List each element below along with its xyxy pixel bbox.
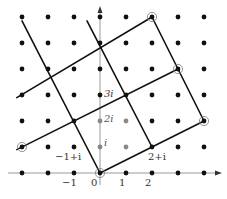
lattice-point bbox=[202, 119, 207, 124]
lattice-point bbox=[46, 41, 51, 46]
lattice-point bbox=[20, 171, 25, 176]
lattice-point bbox=[20, 145, 25, 150]
lattice-point bbox=[124, 119, 129, 124]
y-tick-label-3i: 3i bbox=[104, 88, 114, 99]
lattice-point bbox=[20, 41, 25, 46]
lattice-point bbox=[176, 119, 181, 124]
x-tick-label-neg1: −1 bbox=[62, 177, 77, 188]
lattice-point bbox=[150, 119, 155, 124]
point-label-neg1-plus-i: −1+i bbox=[55, 151, 81, 162]
lattice-point bbox=[202, 41, 207, 46]
lattice-point bbox=[176, 145, 181, 150]
lattice-point bbox=[98, 41, 103, 46]
lattice-point bbox=[176, 67, 181, 72]
lattice-point bbox=[176, 93, 181, 98]
x-tick-label-2: 2 bbox=[145, 177, 151, 188]
lattice-point bbox=[98, 171, 103, 176]
lattice-point bbox=[124, 93, 129, 98]
lattice-point bbox=[20, 119, 25, 124]
lattice-point bbox=[46, 171, 51, 176]
lattice-point bbox=[46, 15, 51, 20]
lattice-point bbox=[176, 41, 181, 46]
x-tick-label-0: 0 bbox=[91, 177, 97, 188]
lattice-point bbox=[202, 171, 207, 176]
lattice-point bbox=[176, 15, 181, 20]
lattice-point bbox=[124, 171, 129, 176]
lattice-point bbox=[98, 67, 103, 72]
lattice-point bbox=[72, 93, 77, 98]
lattice-point bbox=[98, 119, 103, 124]
lattice-point bbox=[202, 15, 207, 20]
lattice-point bbox=[72, 145, 77, 150]
y-axis-arrow-icon bbox=[98, 6, 103, 13]
lattice-point bbox=[98, 145, 103, 150]
lattice-point bbox=[72, 171, 77, 176]
lattice-diagram: −1 0 1 2 i 2i 3i −1+i 2+i bbox=[0, 0, 227, 199]
lattice-point bbox=[46, 145, 51, 150]
axes bbox=[8, 6, 222, 185]
lattice-point bbox=[202, 145, 207, 150]
lattice-point bbox=[202, 67, 207, 72]
y-tick-label-i: i bbox=[104, 137, 107, 148]
lattice-line bbox=[87, 21, 152, 147]
lattice-point bbox=[150, 41, 155, 46]
y-tick-label-2i: 2i bbox=[103, 113, 114, 124]
lattice-point bbox=[46, 67, 51, 72]
x-tick-label-1: 1 bbox=[119, 177, 125, 188]
lattice-point bbox=[124, 145, 129, 150]
lattice-line bbox=[17, 69, 178, 150]
lattice-point bbox=[46, 119, 51, 124]
lattice-point bbox=[20, 67, 25, 72]
lattice-point bbox=[98, 93, 103, 98]
lattice-point bbox=[124, 67, 129, 72]
lattice-point bbox=[72, 15, 77, 20]
lattice-point bbox=[20, 93, 25, 98]
lattice-point bbox=[202, 93, 207, 98]
lattice-point bbox=[98, 15, 103, 20]
lattice-point bbox=[72, 41, 77, 46]
lattice-point bbox=[72, 67, 77, 72]
lattice-point bbox=[150, 171, 155, 176]
lattice-point bbox=[124, 41, 129, 46]
lattice-point bbox=[150, 15, 155, 20]
lattice-point bbox=[150, 145, 155, 150]
lattice-point bbox=[150, 93, 155, 98]
x-axis-arrow-icon bbox=[215, 171, 222, 176]
lattice-point bbox=[176, 171, 181, 176]
lattice-line bbox=[17, 17, 152, 98]
lattice-point bbox=[124, 15, 129, 20]
lattice-point bbox=[150, 67, 155, 72]
lattice-point bbox=[46, 93, 51, 98]
lattice-point bbox=[20, 15, 25, 20]
point-label-2-plus-i: 2+i bbox=[148, 151, 166, 162]
lattice-point bbox=[72, 119, 77, 124]
